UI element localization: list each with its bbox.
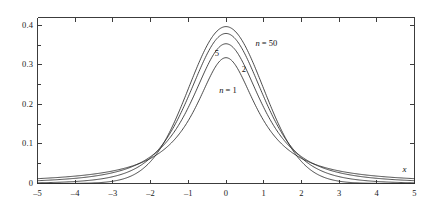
x-tick-label: 0 (214, 189, 238, 198)
tick-marks (38, 18, 415, 184)
curve-label: n = 50 (255, 39, 277, 48)
curve-label: n = 1 (219, 86, 237, 95)
axis-lines (38, 18, 415, 184)
curve-label: 5 (215, 49, 219, 58)
x-tick-label: 4 (365, 189, 389, 198)
curve-group (38, 27, 415, 184)
x-tick-label: –4 (63, 189, 87, 198)
x-tick-label: –1 (176, 189, 200, 198)
curve-label: 2 (242, 65, 246, 74)
x-tick-label: –2 (139, 189, 163, 198)
chart-plot-area (0, 0, 436, 208)
y-tick-label: 0.4 (4, 21, 33, 30)
y-tick-label: 0 (4, 179, 33, 188)
y-tick-label: 0.3 (4, 60, 33, 69)
x-tick-label: 3 (327, 189, 351, 198)
x-tick-label: –5 (26, 189, 50, 198)
x-tick-label: 1 (252, 189, 276, 198)
x-tick-label: –3 (101, 189, 125, 198)
x-tick-label: 2 (289, 189, 313, 198)
y-tick-label: 0.2 (4, 100, 33, 109)
y-tick-label: 0.1 (4, 139, 33, 148)
chart-figure: 00.10.20.30.4 –5–4–3–2–1012345 n = 5052n… (0, 0, 436, 208)
x-tick-label: 5 (403, 189, 427, 198)
x-axis-label: x (403, 165, 407, 174)
